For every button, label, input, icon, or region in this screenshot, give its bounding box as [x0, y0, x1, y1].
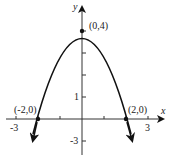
y-ticks	[82, 31, 86, 141]
vertex-point	[80, 29, 84, 33]
y-tick-label-1: 1	[74, 92, 79, 102]
right-intercept-point	[124, 117, 128, 121]
left-intercept-point	[36, 117, 40, 121]
graph-canvas	[0, 0, 170, 163]
x-tick-label-neg3: -3	[10, 123, 18, 133]
parabola-graph: y x (0,4) (-2,0) (2,0) -3 3 1 -3	[0, 0, 170, 163]
right-arrow	[127, 122, 132, 140]
y-axis-label: y	[73, 2, 77, 12]
left-intercept-label: (-2,0)	[14, 105, 37, 115]
y-tick-label-neg3: -3	[70, 136, 78, 146]
x-tick-label-3: 3	[145, 123, 150, 133]
x-axis-label: x	[161, 106, 165, 116]
right-intercept-label: (2,0)	[128, 105, 147, 115]
vertex-label: (0,4)	[89, 21, 108, 31]
